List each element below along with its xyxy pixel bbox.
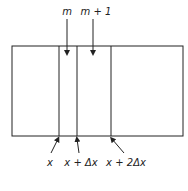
- finite-difference-diagram: m m + 1 x x + Δx x + 2Δx: [0, 0, 188, 191]
- label-x-plus-dx: x + Δx: [63, 157, 97, 168]
- arrow-x-plus-dx-icon: [77, 139, 79, 153]
- arrow-x-icon: [51, 139, 58, 153]
- label-x: x: [46, 157, 53, 168]
- arrow-x-plus-2dx-icon: [112, 139, 124, 153]
- label-x-plus-2dx: x + 2Δx: [105, 157, 146, 168]
- label-m: m: [62, 6, 72, 17]
- label-m-plus-1: m + 1: [81, 6, 112, 17]
- domain-rectangle: [12, 46, 183, 136]
